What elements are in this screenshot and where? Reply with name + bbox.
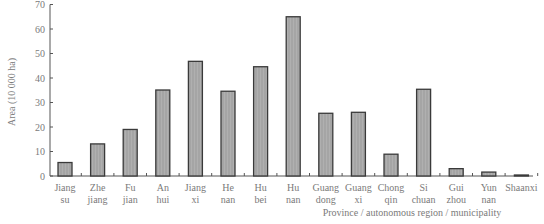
bar (351, 112, 365, 176)
category-label: He (222, 182, 234, 193)
y-axis: 010203040506070 (35, 0, 53, 182)
y-tick-label: 0 (40, 171, 45, 182)
bar (58, 163, 72, 176)
category-label: qin (385, 194, 398, 205)
y-tick-label: 30 (35, 97, 45, 108)
y-tick-label: 60 (35, 24, 45, 35)
bar (91, 144, 105, 176)
category-label: Chong (378, 182, 405, 193)
category-label: su (61, 194, 70, 205)
bar (286, 17, 300, 176)
category-label: xi (355, 194, 363, 205)
category-label: Hu (254, 182, 266, 193)
y-tick-label: 70 (35, 0, 45, 10)
y-tick-label: 10 (35, 146, 45, 157)
bar (417, 89, 431, 176)
category-label: Guang (345, 182, 372, 193)
bar (319, 113, 333, 176)
category-label: dong (316, 194, 336, 205)
category-label: Gui (449, 182, 464, 193)
category-label: bei (254, 194, 266, 205)
bar (482, 172, 496, 176)
bar (449, 169, 463, 176)
bar (221, 91, 235, 176)
category-labels: JiangsuZhejiangFujianAnhuiJiangxiHenanHu… (54, 182, 537, 205)
category-label: Jiang (54, 182, 75, 193)
y-tick-label: 20 (35, 122, 45, 133)
y-tick-label: 40 (35, 73, 45, 84)
bar (156, 90, 170, 176)
category-label: Yun (481, 182, 497, 193)
bar (384, 154, 398, 176)
bar (514, 175, 528, 176)
category-label: zhou (446, 194, 465, 205)
bar (123, 129, 137, 176)
category-label: nan (286, 194, 300, 205)
bar (254, 67, 268, 176)
category-label: An (157, 182, 169, 193)
bar-chart: 010203040506070 JiangsuZhejiangFujianAnh… (0, 0, 544, 224)
category-label: hui (156, 194, 169, 205)
category-label: Fu (125, 182, 136, 193)
category-label: Jiang (185, 182, 206, 193)
bar (188, 61, 202, 176)
x-axis-title: Province / autonomous region / municipal… (323, 207, 502, 218)
bars (58, 17, 528, 176)
category-label: jian (122, 194, 138, 205)
category-label: jiang (87, 194, 108, 205)
category-label: Shaanxi (505, 182, 537, 193)
y-tick-label: 50 (35, 48, 45, 59)
category-label: xi (192, 194, 200, 205)
category-label: chuan (412, 194, 436, 205)
category-label: Hu (287, 182, 299, 193)
category-label: Si (419, 182, 428, 193)
category-label: nan (482, 194, 496, 205)
category-label: Guang (312, 182, 339, 193)
category-label: nan (221, 194, 235, 205)
category-label: Zhe (90, 182, 106, 193)
y-axis-title: Area (10 000 ha) (6, 58, 18, 126)
